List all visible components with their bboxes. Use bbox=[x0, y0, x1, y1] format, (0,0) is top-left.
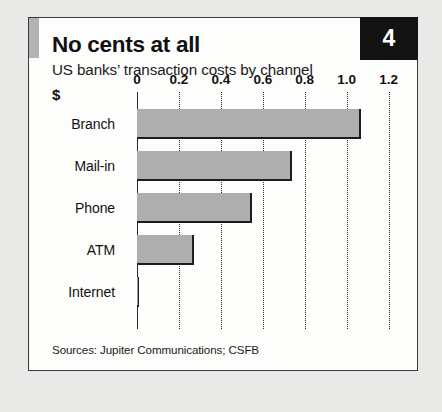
bar-row: Mail-in bbox=[137, 151, 397, 181]
x-tick-label: 1.2 bbox=[379, 72, 398, 87]
category-label: Mail-in bbox=[74, 158, 115, 174]
bar-mail-in bbox=[137, 151, 292, 181]
x-tick-label: 0.8 bbox=[295, 72, 314, 87]
category-label: Phone bbox=[75, 200, 115, 216]
page-title: No cents at all bbox=[52, 32, 200, 58]
bar-branch bbox=[137, 109, 361, 139]
x-tick-label: 1.0 bbox=[337, 72, 356, 87]
accent-block bbox=[29, 18, 39, 58]
badge-number: 4 bbox=[360, 17, 418, 60]
plot-area: 00.20.40.60.81.01.2 BranchMail-inPhoneAT… bbox=[137, 106, 397, 321]
axis-unit-label: $ bbox=[52, 86, 60, 103]
bar-row: Phone bbox=[137, 193, 397, 223]
category-label: Branch bbox=[71, 116, 115, 132]
bar-row: ATM bbox=[137, 235, 397, 265]
x-tick-label: 0.6 bbox=[253, 72, 272, 87]
category-label: Internet bbox=[68, 284, 115, 300]
x-tick-label: 0.2 bbox=[170, 72, 189, 87]
chart-card: 4 No cents at all US banks’ transaction … bbox=[28, 17, 418, 371]
bar-row: Branch bbox=[137, 109, 397, 139]
source-note: Sources: Jupiter Communications; CSFB bbox=[52, 343, 259, 356]
category-label: ATM bbox=[87, 242, 115, 258]
x-tick-label: 0 bbox=[133, 72, 141, 87]
bar-atm bbox=[137, 235, 194, 265]
bar-phone bbox=[137, 193, 252, 223]
bar-row: Internet bbox=[137, 277, 397, 307]
bar-internet bbox=[137, 277, 139, 307]
x-tick-label: 0.4 bbox=[211, 72, 230, 87]
